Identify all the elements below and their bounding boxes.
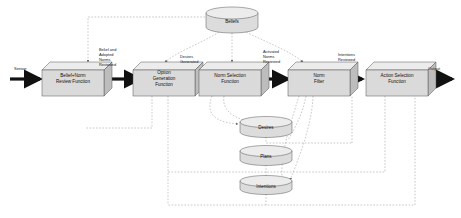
- box-label-line3: Function: [155, 82, 173, 87]
- flow-label-desires-generated: Desires Generated: [180, 54, 198, 64]
- data-store-intentions[interactable]: Intentions: [240, 176, 292, 195]
- connector-desires-right-rail: [266, 137, 352, 143]
- box-label-line1: Option: [157, 70, 171, 75]
- flow-label-line4: Reviewed: [99, 62, 116, 67]
- flow-label-line2: Generated: [180, 59, 198, 64]
- data-store-desires[interactable]: Desires: [240, 117, 292, 138]
- flow-label-belief-and-adopted-norms-reviewed: Belief and Adopted Norms Reviewed: [99, 47, 116, 67]
- architecture-diagram: Belief+Norm Review Function Option Gener…: [0, 0, 461, 218]
- process-box-action-selection-function[interactable]: Action Selection Function: [366, 62, 436, 96]
- process-box-belief-norm-review-function[interactable]: Belief+Norm Review Function: [42, 62, 112, 96]
- box-label-line1: Belief+Norm: [60, 73, 86, 78]
- input-label: Sensor: [14, 66, 27, 71]
- connector-norm-filter-to-intentions: [282, 96, 299, 182]
- data-store-label: Beliefs: [225, 19, 239, 24]
- connector-desires-return: [224, 96, 244, 120]
- connector-beliefs-to-norm-filter: [246, 32, 303, 62]
- box-label-line1: Action Selection: [381, 73, 414, 78]
- data-store-plans[interactable]: Plans: [240, 146, 292, 166]
- box-label-line2: Function: [388, 79, 406, 84]
- flow-label-line2: Reviewed: [338, 57, 355, 62]
- data-store-beliefs[interactable]: Beliefs: [206, 7, 258, 33]
- connector-norm-filter-plans-branch: [290, 96, 313, 180]
- output-label: Output: [428, 66, 441, 71]
- process-box-norm-filter[interactable]: Norm Filter: [288, 62, 358, 96]
- flow-label-intentions-reviewed: Intentions Reviewed: [338, 52, 355, 62]
- box-label-line2: Filter: [314, 79, 325, 84]
- box-label-line1: Norm Selection: [214, 73, 246, 78]
- box-label-line1: Norm: [313, 73, 324, 78]
- flow-label-activated-norms-reviewed: Activated Norms Reviewed: [263, 49, 280, 64]
- flow-label-line3: Reviewed: [263, 59, 280, 64]
- box-label-line2: Function: [221, 79, 239, 84]
- data-store-label: Plans: [260, 154, 272, 159]
- data-store-label: Desires: [258, 125, 274, 130]
- box-label-line2: Review Function: [56, 79, 90, 84]
- box-label-line2: Generation: [153, 76, 176, 81]
- data-store-label: Intentions: [256, 184, 276, 189]
- process-box-option-generation-function[interactable]: Option Generation Function: [133, 62, 203, 96]
- process-box-norm-selection-function[interactable]: Norm Selection Function: [199, 62, 269, 96]
- connector-option-generation-left-rail: [85, 96, 152, 128]
